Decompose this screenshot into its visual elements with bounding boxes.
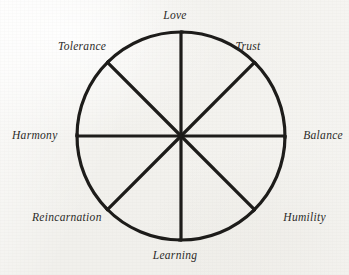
label-balance: Balance bbox=[303, 130, 343, 142]
label-love: Love bbox=[163, 10, 187, 22]
arc-trust bbox=[255, 62, 285, 137]
label-learning: Learning bbox=[153, 250, 198, 262]
arc-harmony bbox=[77, 61, 109, 136]
spoke-trust bbox=[181, 62, 255, 136]
label-tolerance: Tolerance bbox=[58, 41, 106, 53]
label-harmony: Harmony bbox=[12, 130, 58, 142]
arc-humility bbox=[179, 210, 254, 240]
label-reincarnation: Reincarnation bbox=[32, 212, 102, 224]
label-trust: Trust bbox=[235, 41, 260, 53]
spoke-humility bbox=[181, 136, 255, 210]
arc-balance bbox=[253, 136, 285, 211]
arc-learning bbox=[106, 208, 181, 240]
arc-tolerance bbox=[107, 32, 182, 62]
spoke-tolerance bbox=[107, 62, 181, 136]
arc-reincarnation bbox=[77, 134, 107, 209]
spoke-reincarnation bbox=[107, 136, 181, 210]
label-humility: Humility bbox=[283, 212, 326, 224]
